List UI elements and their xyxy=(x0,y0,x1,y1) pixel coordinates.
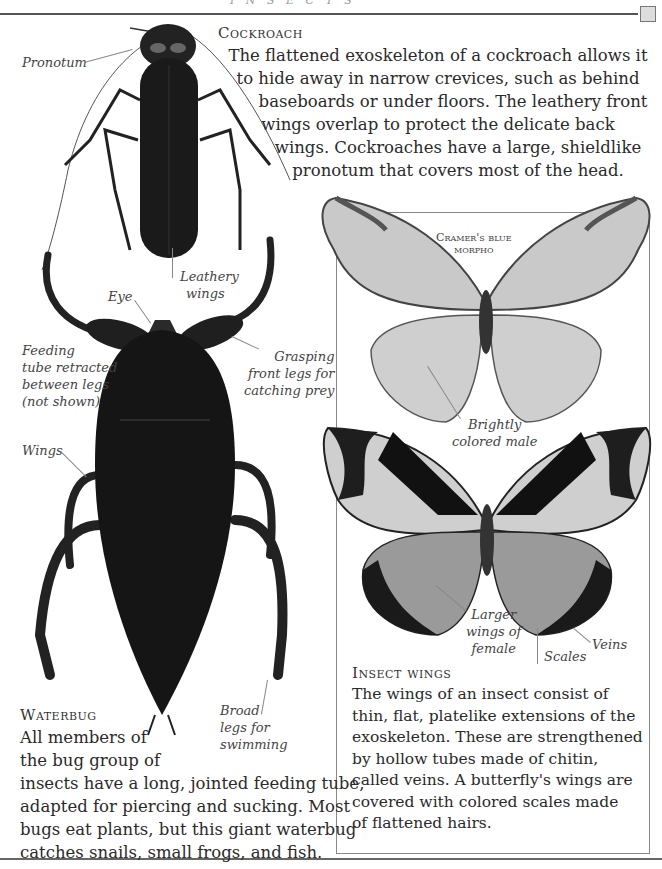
waterbug-heading: Waterbug xyxy=(20,706,97,724)
label-veins: Veins xyxy=(592,636,627,653)
leader-scales xyxy=(537,628,538,664)
insect-wings-heading: Insect wings xyxy=(352,664,451,682)
waterbug-body: All members of the bug group of insects … xyxy=(20,726,330,864)
waterbug-image xyxy=(20,235,300,755)
label-scales: Scales xyxy=(544,648,586,665)
label-wings: Wings xyxy=(22,442,63,459)
male-butterfly-image xyxy=(316,190,656,430)
insect-wings-body: The wings of an insect consist of thin, … xyxy=(352,684,652,835)
label-eye: Eye xyxy=(108,288,133,305)
label-feeding-tube: Feeding tube retracted between legs (not… xyxy=(22,342,117,410)
label-female: Larger wings of female xyxy=(466,606,521,657)
cockroach-heading: Cockroach xyxy=(218,24,303,42)
label-pronotum: Pronotum xyxy=(22,54,87,71)
label-species: Cramer's blue morpho xyxy=(436,232,512,256)
top-rule xyxy=(0,13,638,15)
running-head: I N S E C T S xyxy=(230,0,356,7)
label-male: Brightly colored male xyxy=(452,416,537,450)
corner-box-icon xyxy=(640,6,656,22)
cockroach-body: The flattened exoskeleton of a cockroach… xyxy=(226,44,650,182)
